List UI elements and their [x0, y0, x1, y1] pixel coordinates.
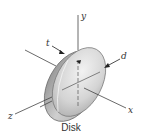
y-axis-label: y — [81, 12, 86, 21]
disk-diagram: y t d x z Disk — [0, 0, 142, 137]
z-axis-back-line — [25, 50, 56, 66]
disk-illustration — [0, 0, 142, 137]
figure-caption: Disk — [0, 122, 142, 133]
x-axis-label: x — [128, 106, 133, 115]
d-dimension-label: d — [121, 52, 127, 61]
t-dimension-label: t — [46, 39, 50, 48]
z-axis-label: z — [8, 112, 13, 121]
t-arrowhead — [59, 50, 65, 54]
